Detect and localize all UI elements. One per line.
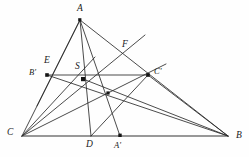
cevian-A-to-Aprime <box>80 20 120 136</box>
point-label-C-prime: C' <box>154 67 162 76</box>
cevian-C-to-F <box>22 35 145 136</box>
line-Cprime-to-D <box>91 75 148 136</box>
point-label-F: F <box>122 40 128 50</box>
point-label-C: C <box>7 128 13 138</box>
point-dot-intersection <box>106 91 109 94</box>
point-label-B: B <box>236 131 242 141</box>
point-label-D: D <box>86 140 93 150</box>
point-label-S: S <box>75 62 80 72</box>
point-dot-A <box>78 18 81 21</box>
point-dot-Bprime <box>45 73 49 77</box>
point-label-A-prime: A' <box>114 141 121 150</box>
point-label-A: A <box>77 4 83 14</box>
geometry-figure: A B C B' S C' E F D A' <box>0 0 249 157</box>
point-label-B-prime: B' <box>29 68 36 77</box>
line-Bprime-to-B <box>47 75 228 136</box>
point-label-E: E <box>44 56 50 66</box>
line-Cprime-to-B <box>148 75 228 136</box>
line-S-to-B <box>83 79 228 136</box>
point-dot-Cprime <box>146 73 150 77</box>
point-dot-Aprime <box>118 134 121 137</box>
point-dot-S <box>81 77 85 81</box>
geometry-canvas <box>0 0 249 157</box>
